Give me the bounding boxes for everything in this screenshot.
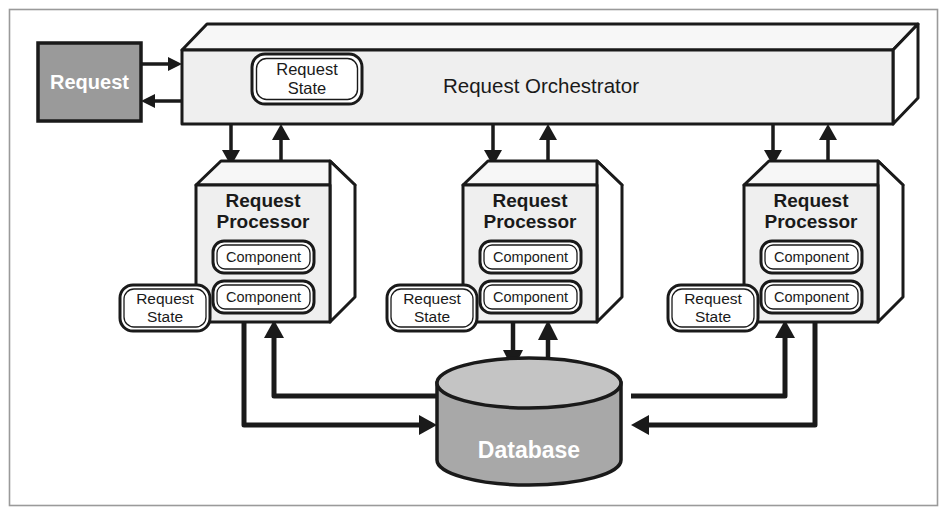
- orchestrator-top-face: [182, 24, 918, 50]
- processor-3-state-pill-line1: Request: [684, 290, 742, 307]
- processor-2-state-pill-line1: Request: [403, 290, 461, 307]
- request-processor-3[interactable]: Request Processor Component Component: [744, 161, 903, 322]
- request-box[interactable]: Request: [38, 43, 141, 121]
- processor-3-component-2-label: Component: [774, 289, 849, 305]
- processor-1-title-line1: Request: [226, 190, 302, 211]
- diagram-canvas: Request Orchestrator Request State Reque…: [0, 0, 949, 516]
- processor-1-component-2-label: Component: [226, 289, 301, 305]
- processor-3-title-line2: Processor: [765, 211, 859, 232]
- processor-2-component-1-label: Component: [493, 249, 568, 265]
- processor-2-state-pill-line2: State: [414, 308, 450, 325]
- processor-1-state-pill-line2: State: [147, 308, 183, 325]
- processor-1-request-state-pill[interactable]: Request State: [120, 285, 210, 331]
- processor-3-request-state-pill[interactable]: Request State: [668, 285, 758, 331]
- processor-3-component-1-label: Component: [774, 249, 849, 265]
- database-cylinder[interactable]: Database: [437, 358, 621, 485]
- orchestrator-state-pill-line1: Request: [276, 60, 338, 78]
- processor-1-title-line2: Processor: [217, 211, 311, 232]
- processor-1-component-1[interactable]: Component: [213, 241, 314, 273]
- processor-1-component-2[interactable]: Component: [213, 281, 314, 313]
- processor-2-component-2-label: Component: [493, 289, 568, 305]
- processor-2-component-2[interactable]: Component: [480, 281, 581, 313]
- request-orchestrator[interactable]: Request Orchestrator Request State: [182, 24, 918, 124]
- processor-1-state-pill-line1: Request: [136, 290, 194, 307]
- processor-3-title-line1: Request: [774, 190, 850, 211]
- processor-3-state-pill-line2: State: [695, 308, 731, 325]
- processor-2-component-1[interactable]: Component: [480, 241, 581, 273]
- processor-1-component-1-label: Component: [226, 249, 301, 265]
- orchestrator-label: Request Orchestrator: [443, 74, 639, 97]
- processor-2-request-state-pill[interactable]: Request State: [387, 285, 477, 331]
- processor-3-component-2[interactable]: Component: [761, 281, 862, 313]
- processor-1-side-face: [330, 161, 355, 322]
- database-label: Database: [478, 437, 580, 463]
- database-top-ellipse: [437, 358, 621, 408]
- processor-3-side-face: [878, 161, 903, 322]
- processor-2-title-line1: Request: [493, 190, 569, 211]
- orchestrator-state-pill-line2: State: [288, 79, 327, 97]
- processor-2-title-line2: Processor: [484, 211, 578, 232]
- processor-2-side-face: [597, 161, 622, 322]
- orchestrator-request-state-pill[interactable]: Request State: [252, 54, 362, 104]
- request-box-label: Request: [50, 71, 129, 93]
- request-processor-2[interactable]: Request Processor Component Component: [463, 161, 622, 322]
- processor-3-component-1[interactable]: Component: [761, 241, 862, 273]
- request-processor-1[interactable]: Request Processor Component Component: [196, 161, 355, 322]
- architecture-diagram: Request Orchestrator Request State Reque…: [0, 0, 949, 516]
